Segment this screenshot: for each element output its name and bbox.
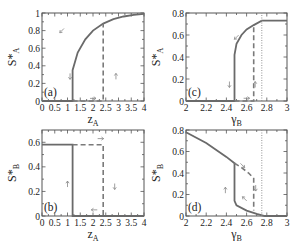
panel-label: (c) <box>188 86 201 99</box>
series-dashed-line <box>235 163 254 210</box>
x-tick-label: 2.6 <box>241 218 253 228</box>
x-tick-label: 3 <box>116 103 121 113</box>
plot-frame <box>42 13 144 101</box>
y-tick-label: 0 <box>35 212 40 222</box>
x-tick-label: 2.5 <box>100 103 112 113</box>
y-axis-label: S*B <box>5 164 21 182</box>
panel-label: (a) <box>44 86 57 99</box>
y-tick-label: 0.6 <box>28 44 40 54</box>
x-tick-label: 2.6 <box>241 103 253 113</box>
y-tick-label: 0.4 <box>28 162 40 172</box>
y-tick-label: 0 <box>179 97 184 107</box>
y-tick-label: 0.6 <box>28 138 40 148</box>
panel-label: (b) <box>44 201 58 214</box>
y-tick-label: 0.8 <box>28 26 40 36</box>
x-tick-label: 3 <box>285 103 290 113</box>
x-tick-label: 0.5 <box>49 218 61 228</box>
series-solid-line <box>186 21 287 101</box>
y-tick-label: 0.2 <box>28 187 40 197</box>
x-tick-label: 0 <box>40 218 45 228</box>
x-tick-label: 3 <box>116 218 121 228</box>
x-tick-label: 2.2 <box>200 218 212 228</box>
y-tick-label: 0.4 <box>172 169 184 179</box>
panel-d: 22.22.42.62.8300.20.40.60.8(d)γBS*B <box>149 126 290 244</box>
figure: 00.511.522.533.5400.20.40.60.81(a)zAS*A … <box>0 0 298 251</box>
y-tick-label: 1 <box>35 9 40 19</box>
x-tick-label: 2.8 <box>261 103 273 113</box>
series-dashed-line <box>73 145 104 216</box>
x-tick-label: 1.5 <box>74 103 86 113</box>
panel-label: (d) <box>188 201 202 214</box>
x-tick-label: 0.5 <box>49 103 61 113</box>
x-tick-label: 2.2 <box>200 103 212 113</box>
x-tick-label: 3 <box>285 218 290 228</box>
panel-c: 22.22.42.62.8300.20.40.60.8(c)γBS*A <box>149 9 290 129</box>
x-axis-label: γB <box>230 227 242 243</box>
x-tick-label: 3.5 <box>125 103 137 113</box>
x-tick-label: 1 <box>65 103 70 113</box>
y-axis-label: S*A <box>149 48 165 67</box>
x-axis-label: zA <box>87 112 98 128</box>
y-tick-label: 0.4 <box>172 53 184 63</box>
y-axis-label: S*B <box>149 164 165 182</box>
y-tick-label: 0 <box>179 212 184 222</box>
y-tick-label: 0.8 <box>172 9 184 19</box>
x-tick-label: 2 <box>184 218 189 228</box>
x-tick-label: 2.8 <box>261 218 273 228</box>
y-axis-label: S*A <box>5 48 21 67</box>
x-tick-label: 4 <box>142 218 147 228</box>
y-tick-label: 0.2 <box>172 75 184 85</box>
x-tick-label: 2 <box>184 103 189 113</box>
y-tick-label: 0.4 <box>28 61 40 71</box>
y-tick-label: 0.2 <box>172 190 184 200</box>
y-tick-label: 0.8 <box>172 126 184 136</box>
panel-b: 00.511.522.533.5400.20.40.6(b)zAS*B <box>5 130 147 243</box>
x-tick-label: 4 <box>142 103 147 113</box>
x-tick-label: 1 <box>65 218 70 228</box>
panel-a: 00.511.522.533.5400.20.40.60.81(a)zAS*A <box>5 9 147 129</box>
x-axis-label: γB <box>230 112 242 128</box>
x-axis-label: zA <box>87 227 98 243</box>
y-tick-label: 0.2 <box>28 79 40 89</box>
y-tick-label: 0.6 <box>172 147 184 157</box>
series-solid-line <box>42 14 144 101</box>
x-tick-label: 0 <box>40 103 45 113</box>
y-tick-label: 0.6 <box>172 31 184 41</box>
x-tick-label: 2.5 <box>100 218 112 228</box>
x-tick-label: 1.5 <box>74 218 86 228</box>
x-tick-label: 3.5 <box>125 218 137 228</box>
y-tick-label: 0 <box>35 97 40 107</box>
plot-frame <box>186 13 287 101</box>
